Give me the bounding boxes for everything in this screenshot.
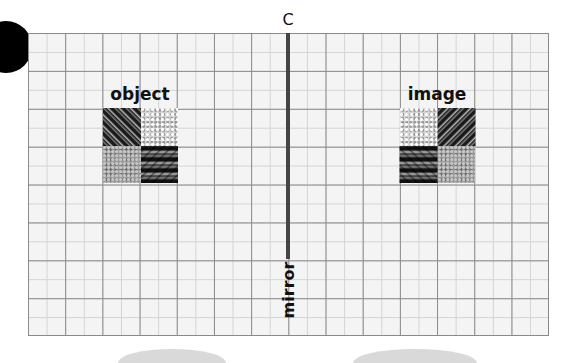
image-tile-mid-speckle — [438, 146, 476, 184]
mirror-line — [286, 33, 290, 259]
object-label: object — [100, 84, 180, 104]
object-tile-dark-streaks — [103, 108, 141, 146]
decorative-arc-right — [353, 349, 477, 363]
object-tile-mid-speckle — [103, 146, 141, 184]
object-tiles — [103, 108, 178, 183]
image-tiles — [400, 108, 475, 183]
image-tile-dark-streaks — [438, 108, 476, 146]
image-tile-light-speckle — [400, 108, 438, 146]
mirror-label: mirror — [279, 262, 298, 319]
object-tile-dark-wave — [141, 146, 179, 184]
image-tile-dark-wave — [400, 146, 438, 184]
decorative-arc-left — [118, 349, 226, 363]
mirror-top-label: C — [280, 10, 296, 29]
object-tile-light-speckle — [141, 108, 179, 146]
image-label: image — [397, 84, 477, 104]
